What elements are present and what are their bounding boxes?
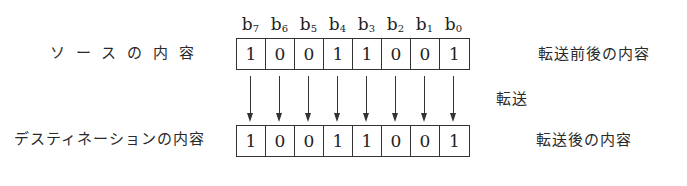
bit-label-b0: b0 — [439, 14, 468, 34]
source-bit-3: 1 — [353, 39, 382, 69]
destination-bit-4: 1 — [324, 126, 353, 156]
destination-bit-3: 1 — [353, 126, 382, 156]
bit-label-b4: b4 — [323, 14, 352, 34]
down-arrow-icon — [381, 76, 410, 122]
destination-label: デスティネーションの内容 — [14, 132, 205, 147]
down-arrow-icon — [265, 76, 294, 122]
bit-label-b7: b7 — [236, 14, 265, 34]
source-bit-4: 1 — [324, 39, 353, 69]
down-arrow-icon — [410, 76, 439, 122]
destination-bit-2: 0 — [382, 126, 411, 156]
bit-label-b6: b6 — [265, 14, 294, 34]
destination-bit-0: 1 — [440, 126, 469, 156]
down-arrow-icon — [323, 76, 352, 122]
source-bit-7: 1 — [237, 39, 266, 69]
destination-bit-1: 0 — [411, 126, 440, 156]
source-bit-6: 0 — [266, 39, 295, 69]
down-arrow-icon — [294, 76, 323, 122]
transfer-label: 転送 — [496, 92, 528, 107]
bit-label-b3: b3 — [352, 14, 381, 34]
source-bit-1: 0 — [411, 39, 440, 69]
source-bit-5: 0 — [295, 39, 324, 69]
down-arrow-icon — [352, 76, 381, 122]
bit-label-b2: b2 — [381, 14, 410, 34]
down-arrow-icon — [236, 76, 265, 122]
destination-right-label: 転送後の内容 — [536, 133, 632, 148]
down-arrow-icon — [439, 76, 468, 122]
destination-bit-7: 1 — [237, 126, 266, 156]
source-bit-0: 1 — [440, 39, 469, 69]
source-right-label: 転送前後の内容 — [538, 47, 650, 62]
bit-position-labels: b7 b6 b5 b4 b3 b2 b1 b0 — [236, 14, 468, 34]
source-register: 1 0 0 1 1 0 0 1 — [236, 38, 470, 70]
source-bit-2: 0 — [382, 39, 411, 69]
bit-label-b5: b5 — [294, 14, 323, 34]
transfer-arrows — [236, 76, 468, 122]
destination-bit-5: 0 — [295, 126, 324, 156]
bit-label-b1: b1 — [410, 14, 439, 34]
destination-register: 1 0 0 1 1 0 0 1 — [236, 125, 470, 157]
destination-bit-6: 0 — [266, 126, 295, 156]
source-label: ソースの内容 — [50, 46, 205, 61]
